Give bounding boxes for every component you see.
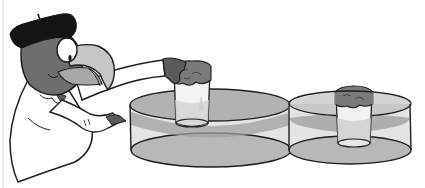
left-basin (130, 89, 291, 167)
left-basin-bottom (131, 133, 291, 167)
left-water-surface (130, 89, 290, 121)
pupil (68, 55, 71, 61)
illustration-canvas (0, 0, 425, 188)
right-cup (335, 86, 373, 147)
eye (57, 38, 77, 62)
illustration: Cartoon parrot scientist in beret and la… (0, 0, 425, 188)
right-paper (335, 86, 373, 108)
